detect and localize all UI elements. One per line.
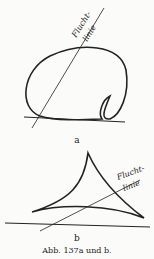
figure-b-label: b [0,233,154,243]
figure-b [5,153,150,231]
loop-curve-a [26,47,127,119]
figure-caption: Abb. 137a und b. [0,246,154,255]
figure-a-label: a [0,135,154,145]
diagram-canvas: Flucht- linie Flucht- linie [0,0,154,259]
annotation-b-line1: Flucht- [115,163,146,182]
annotation-b-line2: linie [122,178,142,193]
baseline-b [5,223,150,227]
